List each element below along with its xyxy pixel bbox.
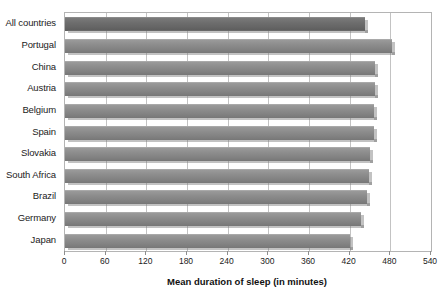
bar[interactable] [65,126,374,139]
bar-fill [65,169,369,183]
bar-slot [65,186,431,208]
bars-layer [65,13,431,251]
x-axis-tick [186,251,187,255]
category-label: Belgium [0,99,60,121]
bar[interactable] [65,169,369,182]
bar-fill [65,61,375,75]
bar[interactable] [65,39,392,52]
bar-fill [65,234,350,248]
bar-slot [65,13,431,35]
category-axis: All countriesPortugalChinaAustriaBelgium… [0,12,60,250]
bar-slot [65,35,431,57]
bar[interactable] [65,212,361,225]
bar-shadow-bottom [68,139,377,142]
bar-shadow-bottom [68,74,378,77]
bar-slot [65,143,431,165]
x-axis-tick-label: 120 [138,256,152,266]
bar-shadow-bottom [68,117,377,120]
category-label: Brazil [0,185,60,207]
x-axis-tick [64,251,65,255]
x-axis-tick-label: 240 [220,256,234,266]
bar-shadow-bottom [68,225,364,228]
bar-slot [65,121,431,143]
bar[interactable] [65,147,370,160]
category-label: Portugal [0,34,60,56]
bar[interactable] [65,17,365,30]
bar-fill [65,39,392,53]
bar-fill [65,212,361,226]
bar[interactable] [65,104,374,117]
category-label: Japan [0,228,60,250]
bar-shadow-bottom [68,203,370,206]
x-axis-tick-label: 540 [423,256,437,266]
bar[interactable] [65,61,375,74]
bar-chart: All countriesPortugalChinaAustriaBelgium… [0,0,439,305]
bar-slot [65,208,431,230]
bar[interactable] [65,82,375,95]
x-axis-tick [145,251,146,255]
category-label: China [0,55,60,77]
x-axis-tick [308,251,309,255]
x-axis-tick [105,251,106,255]
bar-shadow-bottom [68,52,395,55]
x-axis-tick-label: 0 [62,256,67,266]
bar-shadow-bottom [68,160,373,163]
bar-slot [65,100,431,122]
bar-fill [65,147,370,161]
bar-shadow-bottom [68,182,372,185]
x-axis-title: Mean duration of sleep (in minutes) [64,276,430,287]
x-axis-tick [267,251,268,255]
bar-fill [65,104,374,118]
bar-fill [65,126,374,140]
category-label: Germany [0,207,60,229]
bar-fill [65,17,365,31]
x-axis-tick [430,251,431,255]
x-axis-tick [349,251,350,255]
x-axis-tick-label: 180 [179,256,193,266]
x-axis-tick [389,251,390,255]
bar-slot [65,56,431,78]
x-axis-tick-label: 300 [260,256,274,266]
bar[interactable] [65,190,367,203]
bar-fill [65,82,375,96]
bar[interactable] [65,234,350,247]
bar-shadow-bottom [68,247,353,250]
bar-shadow-bottom [68,95,378,98]
bar-slot [65,164,431,186]
category-label: Austria [0,77,60,99]
x-axis-tick-label: 360 [301,256,315,266]
x-axis-tick [227,251,228,255]
value-axis: 060120180240300360420480540 [64,251,430,273]
bar-slot [65,78,431,100]
category-label: All countries [0,12,60,34]
category-label: Slovakia [0,142,60,164]
bar-slot [65,229,431,251]
x-axis-tick-label: 420 [342,256,356,266]
category-label: Spain [0,120,60,142]
x-axis-tick-label: 60 [100,256,109,266]
x-axis-tick-label: 480 [382,256,396,266]
category-label: South Africa [0,163,60,185]
bar-fill [65,190,367,204]
plot-area [64,12,432,252]
bar-shadow-bottom [68,30,368,33]
